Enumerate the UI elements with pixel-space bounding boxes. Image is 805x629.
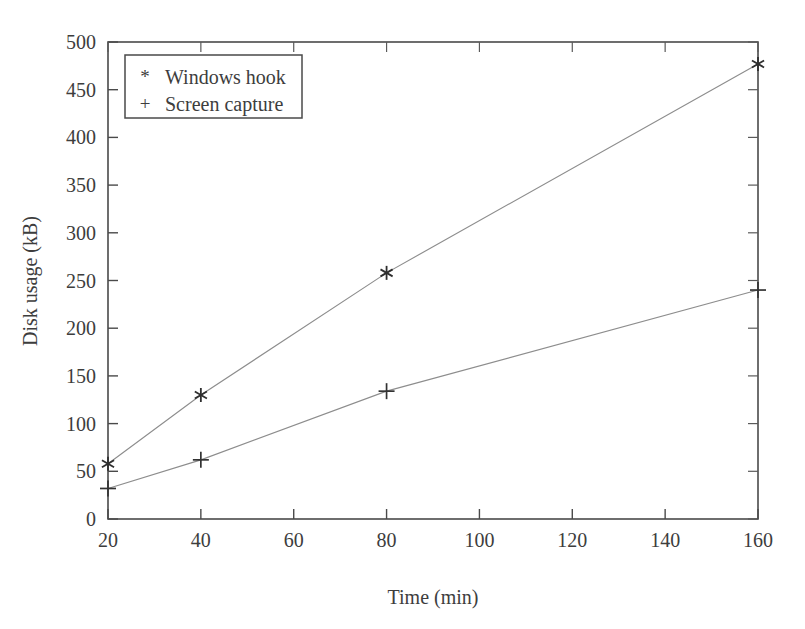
- y-tick-label-300: 300: [66, 222, 96, 244]
- x-tick-label-80: 80: [377, 529, 397, 551]
- legend-label-screen-capture: Screen capture: [165, 93, 283, 116]
- datapoint-screen-capture-20: [100, 480, 116, 496]
- y-tick-label-50: 50: [76, 460, 96, 482]
- y-tick-label-500: 500: [66, 31, 96, 53]
- datapoint-windows-hook-160: [752, 57, 764, 71]
- y-tick-label-350: 350: [66, 174, 96, 196]
- x-tick-label-160: 160: [743, 529, 773, 551]
- series-line-screen-capture: [108, 290, 758, 488]
- datapoint-windows-hook-40: [195, 388, 207, 402]
- y-axis-title: Disk usage (kB): [19, 216, 42, 346]
- chart-legend: * Windows hook + Screen capture: [125, 55, 302, 118]
- y-tick-label-0: 0: [86, 508, 96, 530]
- x-tick-label-120: 120: [557, 529, 587, 551]
- y-tick-label-200: 200: [66, 317, 96, 339]
- y-tick-label-150: 150: [66, 365, 96, 387]
- y-tick-label-250: 250: [66, 270, 96, 292]
- y-tick-label-450: 450: [66, 79, 96, 101]
- x-tick-label-100: 100: [464, 529, 494, 551]
- x-tick-label-140: 140: [650, 529, 680, 551]
- legend-symbol-windows-hook: *: [140, 66, 150, 87]
- datapoint-windows-hook-20: [102, 457, 114, 471]
- y-tick-label-100: 100: [66, 413, 96, 435]
- datapoint-screen-capture-80: [379, 383, 395, 399]
- data-series-layer: [100, 57, 766, 497]
- y-tick-label-400: 400: [66, 126, 96, 148]
- x-tick-label-60: 60: [284, 529, 304, 551]
- datapoint-screen-capture-40: [193, 452, 209, 468]
- datapoint-windows-hook-80: [381, 266, 393, 280]
- x-tick-label-20: 20: [98, 529, 118, 551]
- datapoint-screen-capture-160: [750, 282, 766, 298]
- x-axis-title: Time (min): [388, 586, 479, 609]
- legend-symbol-screen-capture: +: [140, 93, 151, 114]
- legend-label-windows-hook: Windows hook: [165, 66, 286, 88]
- chart-canvas: 050100150200250300350400450500 204060801…: [0, 0, 805, 629]
- series-line-windows-hook: [108, 64, 758, 464]
- figure-container: 050100150200250300350400450500 204060801…: [0, 0, 805, 629]
- x-tick-label-40: 40: [191, 529, 211, 551]
